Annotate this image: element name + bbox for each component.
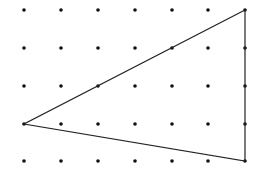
dot-grid-diagram: [0, 0, 253, 175]
grid-dot: [96, 159, 100, 163]
grid-dot: [59, 46, 63, 50]
grid-dot: [133, 122, 137, 126]
grid-dot: [59, 159, 63, 163]
grid-dot: [96, 122, 100, 126]
grid-dot: [22, 159, 26, 163]
grid-dot: [22, 84, 26, 88]
grid-dot: [170, 8, 174, 12]
grid-dot: [96, 8, 100, 12]
grid-dot: [133, 159, 137, 163]
grid-dot: [22, 46, 26, 50]
grid-dot: [59, 8, 63, 12]
grid-dot: [206, 159, 210, 163]
grid-dots: [22, 8, 247, 163]
grid-dot: [206, 122, 210, 126]
grid-dot: [133, 8, 137, 12]
grid-dot: [206, 46, 210, 50]
grid-dot: [59, 122, 63, 126]
grid-dot: [206, 84, 210, 88]
grid-dot: [133, 84, 137, 88]
grid-dot: [170, 84, 174, 88]
grid-dot: [96, 46, 100, 50]
grid-dot: [170, 159, 174, 163]
grid-dot: [206, 8, 210, 12]
grid-dot: [170, 122, 174, 126]
grid-dot: [22, 8, 26, 12]
grid-dot: [133, 46, 137, 50]
grid-dot: [59, 84, 63, 88]
